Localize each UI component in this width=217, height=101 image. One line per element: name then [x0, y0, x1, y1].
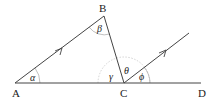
- point-label-D: D: [198, 87, 206, 99]
- point-label-B: B: [99, 2, 106, 14]
- angle-label-phi: ϕ: [139, 71, 144, 82]
- ray-CE: [124, 33, 189, 83]
- angle-label-beta: β: [96, 23, 102, 34]
- segment-BC: [104, 16, 124, 83]
- angle-label-theta: θ: [124, 65, 129, 76]
- point-label-C: C: [120, 87, 127, 99]
- geometry-diagram: A B C D α β γ θ ϕ: [0, 0, 217, 101]
- diagram-svg: A B C D α β γ θ ϕ: [0, 0, 217, 101]
- arc-alpha: [35, 68, 40, 83]
- angle-label-gamma: γ: [109, 71, 114, 82]
- point-label-A: A: [12, 87, 20, 99]
- angle-label-alpha: α: [30, 72, 36, 83]
